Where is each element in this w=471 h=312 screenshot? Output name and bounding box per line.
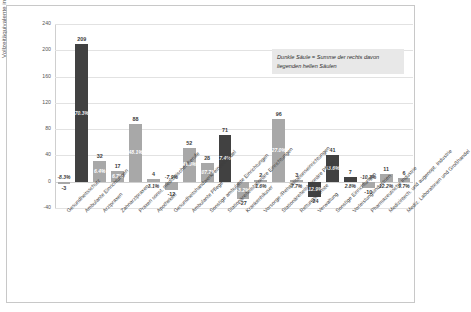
bar[interactable] [58, 182, 71, 184]
bar-slot[interactable]: 20970.3% [73, 24, 91, 208]
y-axis-tick-label: -40 [44, 205, 52, 210]
bar-value-label: 32 [97, 154, 103, 159]
bar-slot[interactable]: 43.1% [145, 24, 163, 208]
bar-value-label: 71 [222, 128, 228, 133]
bar-value-label: -3 [62, 186, 67, 191]
bar-slot[interactable]: 8848.1% [127, 24, 145, 208]
bar-value-label: 17 [115, 164, 121, 169]
x-axis-category-labels: GesundheitsschutzAmbulante Einrichtungen… [55, 210, 413, 305]
y-axis-tick-label: 0 [48, 179, 51, 184]
bar-value-label: 209 [77, 37, 86, 42]
bar-slot[interactable]: 5241.6% [180, 24, 198, 208]
bar-percent-label: 6.4% [94, 169, 105, 174]
bar-value-label: 96 [276, 112, 282, 117]
bar-percent-label: -8.3% [57, 175, 70, 180]
bar[interactable] [147, 179, 160, 182]
bar[interactable] [344, 177, 357, 182]
bar-value-label: 4 [152, 172, 155, 177]
bar-value-label: 7 [349, 170, 352, 175]
bar-slot[interactable]: -3-8.3% [55, 24, 73, 208]
annotation-note: Dunkle Säule = Summe der rechts davon li… [272, 49, 404, 74]
bar-value-label: 28 [204, 156, 210, 161]
y-axis-tick-label: 160 [42, 74, 51, 79]
bar-percent-label: 48.1% [128, 150, 142, 155]
y-axis-tick-label: 120 [42, 100, 51, 105]
bar-value-label: 88 [133, 117, 139, 122]
y-axis-tick-label: 80 [45, 127, 51, 132]
y-axis-title: Vollzeitäquivalente in Tausend [1, 0, 7, 58]
y-axis-tick-label: 40 [45, 153, 51, 158]
y-axis-tick-label: 240 [42, 21, 51, 26]
bar-percent-label: 70.3% [75, 111, 89, 116]
bar-value-label: 52 [186, 141, 192, 146]
y-axis-tick-label: 200 [42, 48, 51, 53]
chart-frame: Vollzeitäquivalente in Tausend -40040801… [6, 5, 415, 303]
